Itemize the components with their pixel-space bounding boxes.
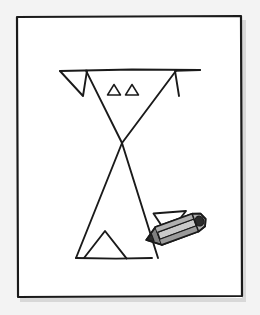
baseline — [76, 258, 152, 259]
paper-fill — [16, 16, 242, 298]
sketch-canvas: Hand-drawn sketch illustration cat-face-… — [0, 0, 260, 315]
sketch-illustration — [0, 0, 260, 315]
